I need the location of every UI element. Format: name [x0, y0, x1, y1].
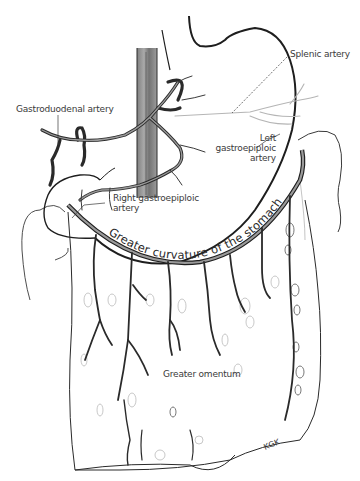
upper-arteries	[42, 76, 318, 210]
splenic-artery-label: Splenic artery	[290, 49, 350, 59]
right-gastroepiploic-label-line1: Right gastroepiploic	[113, 193, 199, 203]
transverse-colon-right	[298, 131, 342, 240]
greater-omentum-label: Greater omentum	[163, 369, 241, 379]
right-gastroepiploic-label-line2: artery	[113, 203, 139, 213]
anatomy-illustration: Greater curvature of the stomach KGK	[0, 0, 360, 481]
left-gastroepiploic-label-line2: gastroepiploic	[198, 143, 276, 153]
gastroduodenal-artery-label: Gastroduodenal artery	[16, 104, 114, 114]
left-gastroepiploic-label-line1: Left	[246, 133, 276, 143]
left-gastroepiploic-label-line3: artery	[236, 153, 276, 163]
artist-signature: KGK	[262, 437, 282, 452]
